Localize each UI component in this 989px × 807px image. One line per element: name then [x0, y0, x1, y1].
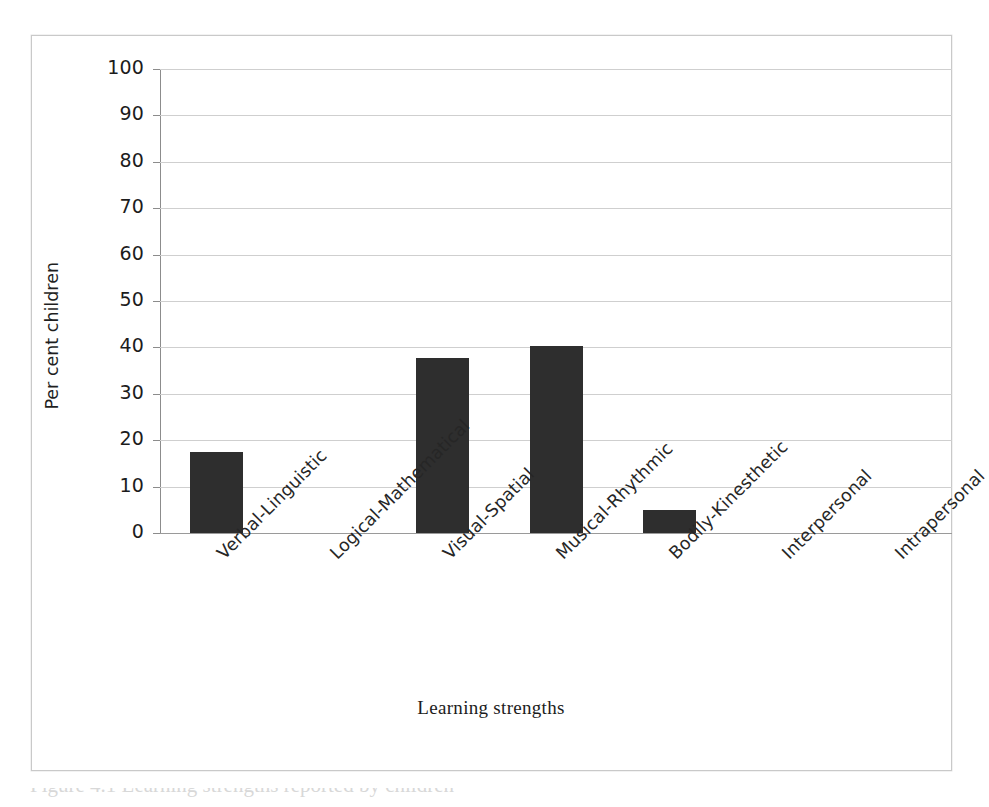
- caption-text: Figure 4.1 Learning strengths reported b…: [30, 788, 930, 798]
- figure-frame: [31, 35, 952, 771]
- page-caption-sliver: Figure 4.1 Learning strengths reported b…: [30, 788, 930, 807]
